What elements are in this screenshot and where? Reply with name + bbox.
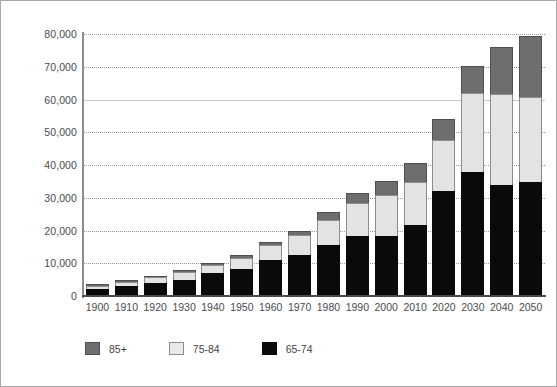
x-axis-tick-label: 2020 (432, 301, 455, 313)
y-axis-tick-label: 80,000 (5, 28, 77, 40)
x-axis-tick-label: 2000 (375, 301, 398, 313)
gridline (83, 34, 545, 35)
bar-segment-65-74 (461, 172, 484, 296)
bar-group (230, 255, 253, 296)
y-axis-tick-label: 40,000 (5, 159, 77, 171)
bar-segment-75-84 (490, 94, 513, 185)
x-axis-tick-label: 2030 (461, 301, 484, 313)
bar-group (201, 263, 224, 296)
legend-item[interactable]: 65-74 (262, 342, 313, 355)
y-axis-line (82, 32, 84, 298)
bar-segment-65-74 (201, 273, 224, 296)
y-axis-tick-label: 0 (5, 290, 77, 302)
bar-group (144, 276, 167, 296)
bar-segment-65-74 (375, 236, 398, 296)
legend-item-label: 85+ (109, 343, 127, 355)
x-axis-line (82, 295, 546, 297)
y-axis-tick-labels: 80,00070,00060,00050,00040,00030,00020,0… (1, 34, 77, 296)
x-axis-tick-label: 1980 (317, 301, 340, 313)
bar-segment-75-84 (461, 93, 484, 172)
bar-group (461, 66, 484, 296)
bar-segment-65-74 (432, 191, 455, 296)
bar-segment-75-84 (288, 235, 311, 255)
bar-segment-75-84 (404, 182, 427, 225)
bar-segment-65-74 (346, 236, 369, 296)
x-axis-tick-labels: 1900191019201930194019501960197019801990… (83, 301, 545, 317)
bar-segment-75-84 (173, 272, 196, 279)
bar-segment-85plus (404, 163, 427, 182)
x-axis-tick-label: 1970 (288, 301, 311, 313)
bar-segment-75-84 (375, 195, 398, 236)
bar-group (115, 280, 138, 296)
swatch-black-icon (262, 342, 277, 355)
bar-segment-75-84 (519, 97, 542, 182)
bar-group (432, 119, 455, 296)
bar-segment-65-74 (288, 255, 311, 296)
x-axis-tick-label: 1990 (346, 301, 369, 313)
x-axis-tick-label: 1920 (144, 301, 167, 313)
legend-item[interactable]: 85+ (85, 342, 127, 355)
bar-segment-65-74 (230, 269, 253, 297)
bar-segment-65-74 (259, 260, 282, 296)
bar-segment-75-84 (317, 220, 340, 245)
x-axis-tick-label: 1960 (259, 301, 282, 313)
swatch-light-gray-icon (169, 342, 184, 355)
bar-segment-65-74 (490, 185, 513, 296)
y-axis-tick-label: 30,000 (5, 192, 77, 204)
swatch-dark-gray-icon (85, 342, 100, 355)
bar-segment-65-74 (404, 225, 427, 296)
legend-item-label: 65-74 (286, 343, 313, 355)
bar-group (173, 270, 196, 296)
bar-segment-65-74 (519, 182, 542, 296)
x-axis-tick-label: 1940 (201, 301, 224, 313)
bar-segment-85plus (490, 47, 513, 94)
x-axis-tick-label: 1930 (172, 301, 195, 313)
x-axis-tick-label: 2040 (490, 301, 513, 313)
bar-segment-85plus (461, 66, 484, 93)
y-axis-tick-label: 10,000 (5, 257, 77, 269)
bar-segment-85plus (519, 36, 542, 97)
bar-segment-75-84 (201, 265, 224, 274)
bar-segment-75-84 (346, 203, 369, 236)
bar-segment-75-84 (259, 245, 282, 260)
bar-group (346, 193, 369, 296)
legend-item[interactable]: 75-84 (169, 342, 220, 355)
bar-group (404, 163, 427, 296)
chart-legend: 85+75-8465-74 (85, 342, 313, 355)
plot-area (83, 34, 545, 296)
x-axis-tick-label: 1900 (86, 301, 109, 313)
bar-group (259, 242, 282, 296)
bar-group (490, 47, 513, 296)
bar-segment-85plus (432, 119, 455, 141)
y-axis-tick-label: 70,000 (5, 61, 77, 73)
bar-group (317, 212, 340, 296)
bar-segment-75-84 (432, 140, 455, 191)
x-axis-tick-label: 1950 (230, 301, 253, 313)
bar-segment-85plus (375, 181, 398, 195)
bar-segment-65-74 (173, 280, 196, 296)
bar-group (375, 181, 398, 296)
y-axis-tick-label: 20,000 (5, 225, 77, 237)
bar-segment-85plus (317, 212, 340, 220)
bar-segment-65-74 (317, 245, 340, 296)
bar-segment-85plus (346, 193, 369, 203)
bar-group (288, 231, 311, 296)
x-axis-tick-label: 2010 (403, 301, 426, 313)
x-axis-tick-label: 2050 (519, 301, 542, 313)
y-axis-tick-label: 60,000 (5, 94, 77, 106)
legend-item-label: 75-84 (193, 343, 220, 355)
bar-segment-75-84 (230, 258, 253, 269)
bar-group (519, 36, 542, 296)
x-axis-tick-label: 1910 (115, 301, 138, 313)
y-axis-tick-label: 50,000 (5, 126, 77, 138)
stacked-bar-chart: 80,00070,00060,00050,00040,00030,00020,0… (0, 0, 557, 387)
